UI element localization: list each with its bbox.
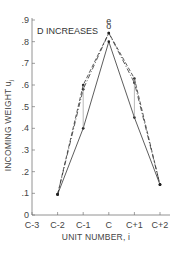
x-tick-label: C-1 [76, 220, 91, 230]
x-tick-label: C+1 [126, 220, 143, 230]
incoming-weight-chart: 0.1.2.3.4.5.6.7.8.9C-3C-2C-1CC+1C+2 UNIT… [0, 0, 184, 257]
x-tick-label: C-3 [25, 220, 40, 230]
y-tick-label: .8 [21, 37, 29, 47]
y-tick-label: .7 [21, 58, 29, 68]
annotation-d-increases: D INCREASES [37, 26, 98, 36]
series-line-intermediate [58, 33, 160, 194]
y-tick-label: .3 [21, 145, 29, 155]
series-line-dashed [58, 33, 160, 194]
x-tick-label: C+2 [152, 220, 169, 230]
data-point [56, 193, 59, 196]
x-tick-label: C-2 [50, 220, 65, 230]
y-tick-label: .1 [21, 188, 29, 198]
y-tick-label: .6 [21, 80, 29, 90]
y-tick-label: .4 [21, 123, 29, 133]
x-tick-label: C [106, 220, 113, 230]
y-tick-label: .5 [21, 102, 29, 112]
y-tick-label: .9 [21, 15, 29, 25]
point-label-o: o [106, 21, 111, 31]
data-point [159, 183, 162, 186]
data-point [108, 40, 111, 43]
series-line-solid [58, 42, 160, 195]
y-axis-title: INCOMING WEIGHT uj [3, 80, 14, 172]
data-point [108, 32, 111, 35]
series-group [56, 32, 161, 196]
y-tick-label: .2 [21, 167, 29, 177]
axes: 0.1.2.3.4.5.6.7.8.9C-3C-2C-1CC+1C+2 [21, 15, 170, 230]
y-tick-label: 0 [24, 210, 29, 220]
x-axis-title: UNIT NUMBER, i [62, 232, 130, 242]
